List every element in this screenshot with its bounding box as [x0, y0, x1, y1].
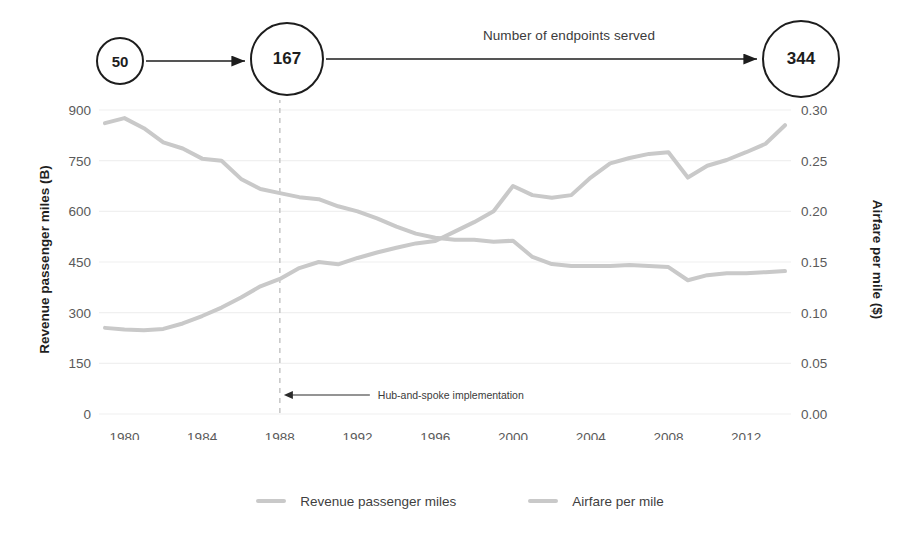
- endpoint-node-2: 167: [250, 22, 324, 96]
- hub-spoke-annotation-label: Hub-and-spoke implementation: [378, 389, 524, 401]
- chart-page: 50 167 344 Number of endpoints served 90…: [0, 0, 920, 535]
- data-lines: [105, 118, 785, 330]
- right-tick-label: 0.30: [801, 103, 827, 118]
- right-axis-ticks: 0.300.250.200.150.100.050.00: [801, 103, 827, 422]
- x-tick-label: 2008: [653, 430, 683, 440]
- legend-item-revenue: Revenue passenger miles: [256, 494, 456, 509]
- hub-spoke-marker: Hub-and-spoke implementation: [280, 100, 524, 418]
- x-tick-label: 1996: [420, 430, 450, 440]
- chart-plot-area: 9007506004503001500 0.300.250.200.150.10…: [0, 100, 920, 440]
- left-axis-ticks: 9007506004503001500: [68, 103, 91, 422]
- legend-label-revenue: Revenue passenger miles: [300, 494, 456, 509]
- left-tick-label: 600: [68, 204, 91, 219]
- right-tick-label: 0.00: [801, 407, 827, 422]
- left-tick-label: 900: [68, 103, 91, 118]
- left-tick-label: 750: [68, 154, 91, 169]
- right-tick-label: 0.25: [801, 154, 827, 169]
- legend-item-airfare: Airfare per mile: [528, 494, 664, 509]
- legend-swatch-revenue: [256, 499, 286, 503]
- left-tick-label: 150: [68, 356, 91, 371]
- endpoint-flow-diagram: 50 167 344 Number of endpoints served: [0, 0, 920, 100]
- right-axis-title: Airfare per mile ($): [870, 120, 885, 400]
- gridlines: [99, 110, 791, 414]
- left-axis-title: Revenue passenger miles (B): [37, 120, 52, 400]
- right-tick-label: 0.15: [801, 255, 827, 270]
- legend-label-airfare: Airfare per mile: [572, 494, 664, 509]
- x-axis-ticks: 198019841988199219962000200420082012: [109, 430, 761, 440]
- x-tick-label: 1984: [187, 430, 218, 440]
- series-line-revenue-passenger-miles: [105, 125, 785, 330]
- flow-label: Number of endpoints served: [409, 28, 729, 43]
- x-tick-label: 1980: [109, 430, 139, 440]
- x-tick-label: 2012: [731, 430, 761, 440]
- x-tick-label: 1992: [343, 430, 373, 440]
- line-chart-svg: 9007506004503001500 0.300.250.200.150.10…: [0, 100, 920, 440]
- left-tick-label: 0: [83, 407, 91, 422]
- x-tick-label: 2004: [576, 430, 607, 440]
- endpoint-node-3: 344: [762, 20, 840, 98]
- chart-legend: Revenue passenger miles Airfare per mile: [0, 486, 920, 516]
- endpoint-node-1: 50: [96, 37, 144, 85]
- legend-swatch-airfare: [528, 499, 558, 503]
- right-tick-label: 0.20: [801, 204, 827, 219]
- x-tick-label: 2000: [498, 430, 528, 440]
- series-line-airfare-per-mile: [105, 118, 785, 280]
- x-tick-label: 1988: [265, 430, 295, 440]
- left-tick-label: 300: [68, 306, 91, 321]
- right-tick-label: 0.05: [801, 356, 827, 371]
- left-tick-label: 450: [68, 255, 91, 270]
- right-tick-label: 0.10: [801, 306, 827, 321]
